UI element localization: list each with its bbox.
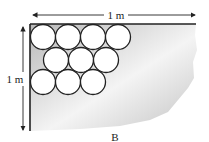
circle xyxy=(106,25,131,50)
circle xyxy=(94,48,119,73)
packing-diagram: 1 m 1 m B xyxy=(0,0,209,142)
circle xyxy=(56,70,81,95)
circle xyxy=(31,25,56,50)
circle xyxy=(44,48,69,73)
height-label: 1 m xyxy=(7,73,24,85)
width-label: 1 m xyxy=(108,9,125,21)
circle xyxy=(31,70,56,95)
circle xyxy=(81,70,106,95)
circle xyxy=(81,25,106,50)
circle xyxy=(56,25,81,50)
width-dimension: 1 m xyxy=(33,9,195,21)
circle xyxy=(69,48,94,73)
figure-label: B xyxy=(111,131,118,142)
height-dimension: 1 m xyxy=(7,27,24,130)
